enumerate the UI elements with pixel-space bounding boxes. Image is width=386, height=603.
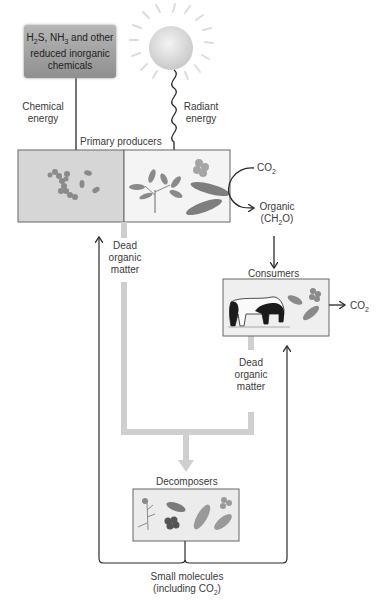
decomposers-box [133, 489, 239, 541]
inorganic-chemicals-box: H2S, NH3 and other reduced inorganic che… [24, 25, 116, 78]
sun-icon [130, 4, 213, 79]
organic-label: Organic (CH2O) [255, 201, 299, 229]
consumers-co2-label: CO2 [350, 300, 369, 316]
consumers-label: Consumers [248, 268, 299, 280]
small-molecules-label: Small molecules (including CO2) [148, 571, 226, 599]
radiant-energy-arrow [172, 70, 177, 160]
radiant-energy-label: Radiant energy [180, 101, 222, 125]
co2-input-label: CO2 [257, 162, 276, 178]
decomposers-label: Decomposers [156, 476, 218, 488]
chemical-energy-label: Chemical energy [20, 101, 66, 125]
inorganic-chemicals-label: H2S, NH3 and other reduced inorganic che… [24, 32, 116, 72]
primary-producers-box [18, 150, 231, 222]
dead-organic-matter-label-1: Dead organic matter [104, 240, 146, 276]
consumers-box [223, 279, 329, 336]
primary-producers-label: Primary producers [80, 136, 162, 148]
dead-matter-arrowhead [178, 460, 194, 472]
diagram-canvas [0, 0, 386, 603]
carbon-fixation-arrow [229, 168, 254, 208]
dead-organic-matter-label-2: Dead organic matter [230, 357, 272, 393]
